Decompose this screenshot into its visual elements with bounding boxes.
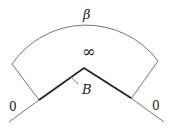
right-zero-label: 0 xyxy=(152,100,160,112)
beta-label: β xyxy=(83,8,91,21)
b-pointer xyxy=(71,77,78,84)
left-zero-label: 0 xyxy=(9,101,17,113)
left-connector xyxy=(12,64,39,100)
infinity-label: ∞ xyxy=(82,44,95,60)
right-connector xyxy=(131,61,158,99)
diagram: β ∞ B 0 0 xyxy=(0,0,169,127)
boundary-label: B xyxy=(82,83,92,96)
